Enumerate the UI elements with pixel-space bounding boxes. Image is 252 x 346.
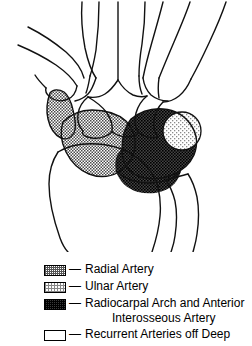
thumb-ray xyxy=(18,27,84,101)
legend-label-ulnar-artery: Ulnar Artery xyxy=(85,279,148,294)
legend-dash: — xyxy=(69,279,81,294)
figure-page: — Radial Artery — Ulnar Artery — Radioca… xyxy=(0,0,252,346)
legend-label-recurrent-arteries: Recurrent Arteries off Deep xyxy=(85,327,230,342)
region-ulnar-artery xyxy=(163,112,201,150)
legend-dash: — xyxy=(69,327,81,342)
legend-label-radiocarpal-arch: Radiocarpal Arch and Anterior xyxy=(85,296,244,311)
ulnar-artery-swatch xyxy=(44,282,66,293)
legend: — Radial Artery — Ulnar Artery — Radioca… xyxy=(0,259,252,346)
legend-dash: — xyxy=(69,262,81,277)
legend-row-radiocarpal-arch: — Radiocarpal Arch and Anterior Inteross… xyxy=(0,297,252,314)
radial-artery-swatch xyxy=(44,265,66,276)
legend-label-radial-artery: Radial Artery xyxy=(85,262,154,277)
legend-label-radiocarpal-arch-line2: Interosseous Artery xyxy=(112,311,215,326)
legend-row-radial-artery: — Radial Artery xyxy=(0,263,252,280)
legend-dash: — xyxy=(69,296,81,311)
radiocarpal-arch-swatch xyxy=(44,299,66,310)
metacarpal-bases xyxy=(75,76,191,102)
metacarpal-shafts xyxy=(82,2,226,80)
wrist-anatomy-diagram xyxy=(0,0,252,252)
legend-row-ulnar-artery: — Ulnar Artery xyxy=(0,280,252,297)
legend-row-recurrent-arteries: — Recurrent Arteries off Deep xyxy=(0,328,252,345)
recurrent-arteries-swatch xyxy=(44,330,66,341)
